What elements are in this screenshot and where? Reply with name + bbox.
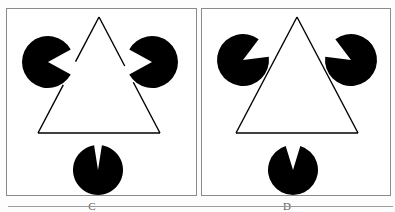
kanizsa-figure: C D — [0, 0, 395, 212]
disc-top-right — [325, 34, 377, 86]
disc-top-left — [217, 34, 269, 86]
bottom-rule — [8, 206, 393, 207]
disc-bottom — [268, 146, 318, 195]
panel-d-artwork — [0, 0, 395, 212]
